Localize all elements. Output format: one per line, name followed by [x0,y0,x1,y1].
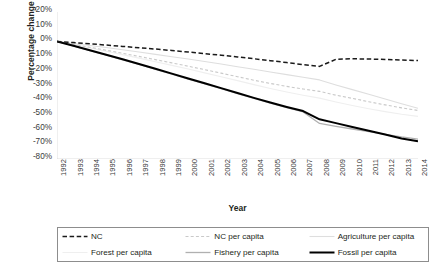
legend-swatch-icon [309,232,335,241]
legend-swatch-icon [185,248,211,257]
x-tick-label: 2005 [274,159,282,199]
legend-item[interactable]: Forest per capita [58,245,181,262]
line-chart: Percentage change 20%10%0%-10%-20%-30%-4… [0,0,440,274]
x-tick-label: 1992 [60,159,68,199]
x-tick-label: 2008 [323,159,331,199]
plot-svg [57,12,418,159]
x-tick-label: 2006 [290,159,298,199]
legend-label: Forest per capita [91,248,152,257]
legend-swatch-icon [62,232,88,241]
y-tick-label: -60% [18,124,52,132]
legend-swatch-icon [309,248,335,257]
x-tick-label: 2000 [191,159,199,199]
y-tick-label: -80% [18,153,52,161]
x-tick-label: 1994 [93,159,101,199]
y-tick-label: -50% [18,109,52,117]
plot-area [57,12,418,159]
legend-label: NC per capita [214,232,263,241]
legend-item[interactable]: NC [58,228,181,245]
x-tick-label: 2007 [306,159,314,199]
legend-grid: NCNC per capitaAgriculture per capitaFor… [58,228,428,261]
y-tick-label: -10% [18,50,52,58]
x-tick-label: 2004 [257,159,265,199]
series-line [57,41,418,108]
legend-item[interactable]: Fossil per capita [305,245,428,262]
x-tick-label: 2011 [372,159,380,199]
x-tick-label: 2003 [241,159,249,199]
legend-item[interactable]: Fishery per capita [181,245,304,262]
series-line [57,41,418,66]
legend-label: Fishery per capita [214,248,278,257]
y-tick-label: 20% [18,6,52,14]
x-tick-label: 1993 [77,159,85,199]
y-tick-label: -70% [18,138,52,146]
legend-label: Agriculture per capita [338,232,414,241]
x-tick-label: 2010 [356,159,364,199]
x-tick-label: 2012 [388,159,396,199]
y-tick-label: 10% [18,21,52,29]
legend-item[interactable]: Agriculture per capita [305,228,428,245]
x-tick-label: 1997 [142,159,150,199]
x-tick-label: 2014 [421,159,429,199]
y-axis-tick-labels: 20%10%0%-10%-20%-30%-40%-50%-60%-70%-80% [18,6,52,165]
legend-swatch-icon [62,248,88,257]
y-tick-label: -40% [18,94,52,102]
legend-label: Fossil per capita [338,248,397,257]
legend-label: NC [91,232,103,241]
x-tick-label: 1995 [109,159,117,199]
x-tick-label: 1996 [126,159,134,199]
legend-item[interactable]: NC per capita [181,228,304,245]
x-tick-label: 1999 [175,159,183,199]
y-tick-label: 0% [18,35,52,43]
x-tick-label: 2002 [224,159,232,199]
y-tick-label: -30% [18,80,52,88]
x-tick-label: 1998 [159,159,167,199]
legend: NCNC per capitaAgriculture per capitaFor… [57,227,429,262]
x-tick-label: 2013 [405,159,413,199]
y-tick-label: -20% [18,65,52,73]
series-line [57,41,418,116]
x-axis-tick-labels: 1992199319941995199619971998199920002001… [57,161,418,201]
x-axis-title: Year [57,203,418,213]
x-tick-label: 2001 [208,159,216,199]
legend-swatch-icon [185,232,211,241]
x-tick-label: 2009 [339,159,347,199]
